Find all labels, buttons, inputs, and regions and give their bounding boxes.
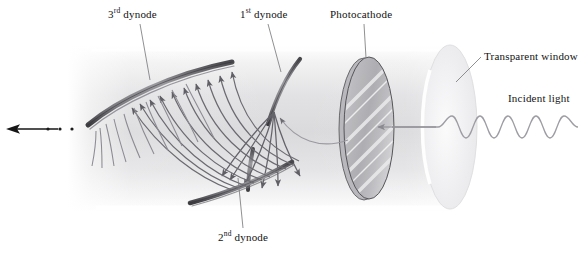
label-second-dynode: 2nd dynode — [218, 231, 268, 243]
label-photocathode: Photocathode — [330, 8, 392, 20]
label-transparent-window: Transparent window — [484, 50, 578, 62]
output-electron-arrow — [6, 124, 58, 134]
label-second-dynode-word: dynode — [232, 231, 269, 243]
label-third-dynode-word: dynode — [120, 8, 157, 20]
label-incident-light: Incident light — [508, 92, 570, 104]
label-second-dynode-ordinal: nd — [224, 229, 232, 238]
label-first-dynode-word: dynode — [251, 8, 288, 20]
photomultiplier-diagram: 3rd dynode 1st dynode Photocathode Trans… — [0, 0, 578, 254]
label-third-dynode: 3rd dynode — [108, 8, 157, 20]
diagram-canvas — [0, 0, 578, 254]
label-first-dynode: 1st dynode — [240, 8, 288, 20]
